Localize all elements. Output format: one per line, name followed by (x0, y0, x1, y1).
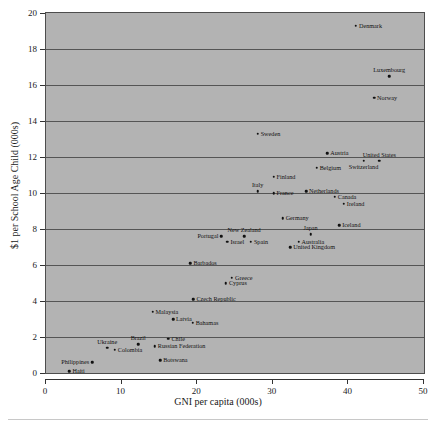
data-point-label: New Zealand (227, 227, 260, 233)
y-tick-mark (40, 373, 45, 374)
data-point (91, 361, 94, 364)
gridline (46, 49, 424, 50)
data-point (159, 359, 162, 362)
data-point-label: Portugal (197, 233, 218, 239)
scatter-plot-figure: DenmarkLuxembourgNorwaySwedenAustriaUnit… (0, 0, 436, 426)
y-tick-label: 18 (28, 44, 37, 54)
data-point (362, 159, 365, 162)
data-point (106, 347, 109, 350)
y-axis-title: $1 per School Age Child (000s) (9, 96, 20, 276)
data-point-label: Germany (286, 215, 309, 221)
data-point-label: Iceland (342, 222, 360, 228)
data-point (281, 217, 284, 220)
x-tick-mark (196, 379, 197, 384)
x-tick-label: 40 (343, 386, 352, 396)
x-axis-title: GNI per capita (000s) (0, 396, 436, 407)
x-tick-mark (347, 379, 348, 384)
y-tick-label: 0 (33, 368, 38, 378)
data-point-label: Brazil (131, 335, 146, 341)
data-point-label: Switzerland (349, 164, 379, 170)
x-tick-label: 20 (192, 386, 201, 396)
gridline (46, 85, 424, 86)
data-point-label: Ireland (347, 201, 365, 207)
data-point (343, 203, 346, 206)
y-tick-mark (40, 49, 45, 50)
data-point-label: Cyprus (229, 280, 247, 286)
data-point-label: Latvia (176, 316, 192, 322)
data-point (191, 321, 194, 324)
gridline (46, 265, 424, 266)
data-point (226, 240, 229, 243)
data-point-label: Spain (254, 238, 268, 244)
y-tick-label: 12 (28, 152, 37, 162)
data-point (334, 195, 337, 198)
data-point-label: Belgium (320, 165, 341, 171)
data-point (172, 318, 175, 321)
data-point-label: Malaysia (156, 309, 179, 315)
data-point-label: Japan (304, 225, 318, 231)
data-point-label: Israel (230, 238, 244, 244)
data-point-label: Botswana (163, 357, 187, 363)
data-point-label: Finland (277, 174, 296, 180)
y-tick-mark (40, 301, 45, 302)
data-point-label: Austria (330, 150, 348, 156)
x-tick-label: 0 (43, 386, 48, 396)
data-point (272, 192, 275, 195)
data-point (305, 190, 308, 193)
data-point (151, 311, 154, 314)
data-point-label: Czech Republic (196, 296, 235, 302)
data-point (189, 262, 192, 265)
x-tick-mark (45, 379, 46, 384)
bottom-rule (8, 419, 428, 420)
y-tick-label: 4 (33, 296, 38, 306)
data-point (225, 282, 228, 285)
y-tick-label: 10 (28, 188, 37, 198)
y-tick-mark (40, 337, 45, 338)
data-point (373, 96, 376, 99)
data-point-label: Denmark (359, 22, 382, 28)
data-point-label: France (277, 190, 294, 196)
plot-area: DenmarkLuxembourgNorwaySwedenAustriaUnit… (45, 12, 425, 374)
data-point (114, 348, 117, 351)
data-point (154, 345, 157, 348)
data-point-label: Russian Federation (158, 343, 206, 349)
data-point (256, 190, 259, 193)
y-tick-label: 2 (33, 332, 38, 342)
data-point (272, 176, 275, 179)
y-tick-mark (40, 265, 45, 266)
x-tick-label: 50 (419, 386, 428, 396)
data-point (338, 224, 341, 227)
x-axis: 01020304050 (45, 379, 423, 380)
data-point-label: Ukraine (97, 339, 117, 345)
data-point-label: United States (363, 151, 396, 157)
gridline (46, 193, 424, 194)
data-point-label: Haiti (72, 368, 84, 374)
x-tick-mark (272, 379, 273, 384)
data-point (167, 338, 170, 341)
data-point-label: United Kingdom (293, 244, 335, 250)
data-point (68, 370, 71, 373)
data-point-label: Bahamas (196, 319, 219, 325)
y-tick-label: 20 (28, 8, 37, 18)
y-tick-label: 16 (28, 80, 37, 90)
y-tick-mark (40, 193, 45, 194)
data-point (192, 298, 195, 301)
data-point (250, 240, 253, 243)
data-point (388, 75, 391, 78)
y-tick-mark (40, 157, 45, 158)
data-point (220, 235, 223, 238)
data-point-label: Colombia (118, 346, 142, 352)
y-tick-mark (40, 13, 45, 14)
y-tick-mark (40, 85, 45, 86)
data-point-label: Norway (377, 94, 397, 100)
x-tick-label: 10 (116, 386, 125, 396)
x-tick-mark (121, 379, 122, 384)
y-tick-mark (40, 121, 45, 122)
data-point-label: Luxembourg (373, 67, 405, 73)
data-point-label: Italy (252, 182, 263, 188)
data-point (289, 246, 292, 249)
y-tick-label: 8 (33, 224, 38, 234)
data-point (378, 159, 381, 162)
data-point-label: Netherlands (309, 188, 339, 194)
x-tick-label: 30 (267, 386, 276, 396)
